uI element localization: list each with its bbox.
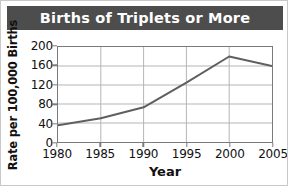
y-axis-label-text: Rate per 100,000 Births <box>6 20 20 170</box>
chart-figure: Births of Triplets or More Rate per 100,… <box>0 0 288 186</box>
page-title: Births of Triplets or More <box>40 10 250 26</box>
y-axis-tick-label: 160 <box>19 58 53 72</box>
x-axis-tick-mark <box>99 143 100 147</box>
x-axis-tick-label: 2005 <box>258 147 288 161</box>
x-axis-tick-mark <box>186 143 187 147</box>
x-axis-tick-mark <box>56 143 57 147</box>
plot-area <box>57 46 273 143</box>
x-axis-tick-mark <box>143 143 144 147</box>
y-axis-tick-mark <box>52 103 57 104</box>
x-axis-tick-label: 1985 <box>85 147 115 161</box>
y-axis-tick-mark <box>52 123 57 124</box>
x-axis-tick-mark <box>272 143 273 147</box>
y-axis-tick-label: 200 <box>19 39 53 53</box>
y-axis-tick-mark <box>52 45 57 46</box>
y-axis-tick-label: 80 <box>19 97 53 111</box>
x-axis-tick-label: 1990 <box>129 147 159 161</box>
data-series-line <box>58 47 272 142</box>
x-axis-tick-mark <box>229 143 230 147</box>
y-axis-tick-label: 120 <box>19 78 53 92</box>
x-axis-tick-label: 1995 <box>172 147 202 161</box>
x-axis-tick-label: 1980 <box>42 147 72 161</box>
x-axis-tick-label: 2000 <box>215 147 245 161</box>
y-axis-tick-mark <box>52 84 57 85</box>
x-axis-label: Year <box>57 164 273 179</box>
y-axis-tick-mark <box>52 65 57 66</box>
y-axis-tick-label: 40 <box>19 117 53 131</box>
